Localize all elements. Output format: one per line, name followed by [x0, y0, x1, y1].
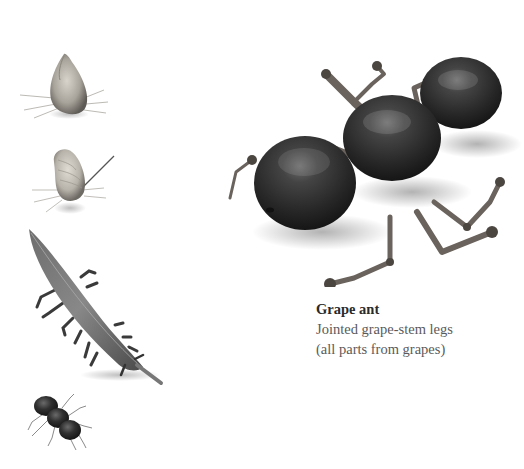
- pod-caterpillar-image: [25, 225, 175, 390]
- seed-insect-image: [14, 40, 114, 125]
- small-ant-image: [18, 388, 103, 454]
- grape-ant-image: [222, 52, 522, 287]
- caption-title: Grape ant: [316, 299, 516, 319]
- caption: Grape ant Jointed grape-stem legs (all p…: [316, 299, 516, 359]
- peanut-bug-image: [18, 140, 118, 220]
- caption-line-1: Jointed grape-stem legs: [316, 319, 516, 339]
- caption-line-2: (all parts from grapes): [316, 339, 516, 359]
